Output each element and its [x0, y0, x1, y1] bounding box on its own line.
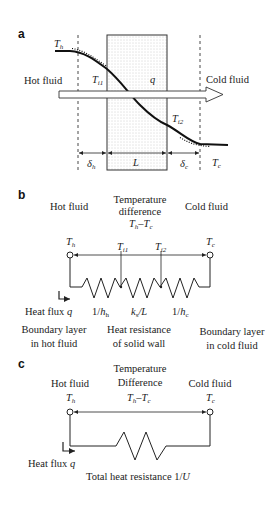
heat-flux-arrow — [59, 291, 70, 299]
label-bl-hot-1: Boundary layer — [21, 324, 87, 335]
Ti1-node — [120, 286, 122, 288]
label-Ti2: Ti2 — [172, 113, 184, 126]
label-r2: ks/L — [131, 306, 147, 319]
label-Tc: Tc — [212, 157, 222, 170]
label-cold-fluid: Cold fluid — [189, 378, 233, 389]
label-hot-fluid: Hot fluid — [24, 75, 63, 86]
label-r1: 1/hh — [92, 306, 109, 319]
cold-terminal — [207, 252, 213, 258]
hot-terminal — [67, 409, 73, 415]
panel-b-label: b — [18, 188, 25, 202]
label-bl-hot-2: in hot fluid — [31, 338, 78, 349]
Ti2-node — [160, 286, 162, 288]
label-bl-cold-2: in cold fluid — [206, 340, 258, 351]
label-delta-c: δc — [180, 158, 189, 171]
panel-a: a Th Hot fluid Ti1 q Cold fluid Ti2 δh L… — [18, 27, 250, 172]
label-wall-2: of solid wall — [113, 338, 166, 349]
label-cold-fluid: Cold fluid — [185, 201, 229, 212]
label-Th: Th — [54, 38, 64, 51]
label-Th: Th — [66, 236, 76, 249]
label-temperature: Temperature — [114, 363, 167, 374]
resistor-circuit — [70, 258, 210, 298]
label-delta-h: δh — [87, 158, 96, 171]
label-Ti1: Ti1 — [92, 74, 103, 87]
label-Tc: Tc — [206, 236, 216, 249]
panel-c-label: c — [18, 357, 25, 371]
label-difference: Difference — [118, 377, 163, 388]
label-Th: Th — [66, 392, 76, 405]
panel-c: c Temperature Hot fluid Difference Cold … — [18, 357, 232, 482]
label-Ti1: Ti1 — [117, 241, 128, 254]
panel-b: b Hot fluid Temperature difference Th–Tc… — [18, 188, 265, 351]
hot-terminal — [67, 252, 73, 258]
label-hot-fluid: Hot fluid — [50, 201, 89, 212]
label-wall-1: Heat resistance — [107, 324, 171, 335]
label-Th-minus-Tc: Th–Tc — [127, 392, 151, 405]
panel-a-label: a — [18, 27, 25, 41]
label-hot-fluid: Hot fluid — [51, 378, 90, 389]
label-Th-minus-Tc: Th–Tc — [129, 218, 153, 231]
label-temperature: Temperature — [114, 194, 167, 205]
label-heat-flux: Heat flux q — [25, 306, 72, 317]
cold-terminal — [207, 409, 213, 415]
label-heat-flux: Heat flux q — [28, 458, 75, 469]
label-total-resistance: Total heat resistance 1/U — [86, 471, 191, 482]
heat-transfer-diagram: a Th Hot fluid Ti1 q Cold fluid Ti2 δh L… — [0, 0, 280, 507]
label-bl-cold-1: Boundary layer — [199, 326, 265, 337]
label-L: L — [132, 157, 139, 168]
label-q: q — [150, 74, 155, 85]
label-r3: 1/hc — [172, 306, 189, 319]
label-Tc: Tc — [206, 392, 216, 405]
total-resistor-circuit — [70, 415, 210, 460]
label-cold-fluid: Cold fluid — [206, 74, 250, 85]
label-difference: difference — [119, 206, 162, 217]
